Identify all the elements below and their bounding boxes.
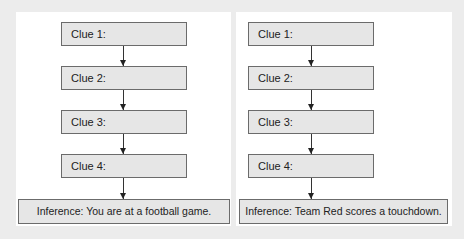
clue-label: Clue 2: [71,73,106,84]
arrow-down-icon [311,90,312,110]
arrow-down-icon [123,178,124,199]
clue-label: Clue 1: [258,29,293,40]
left-inference-box: Inference: You are at a football game. [18,199,230,224]
clue-label: Clue 3: [258,117,293,128]
right-inference-box: Inference: Team Red scores a touchdown. [239,199,448,224]
inference-text: Inference: Team Red scores a touchdown. [245,206,442,217]
clue-label: Clue 2: [258,73,293,84]
left-inference-panel: Clue 1: Clue 2: Clue 3: Clue 4: Inferenc… [16,12,231,226]
inference-text: Inference: You are at a football game. [37,206,212,217]
clue-label: Clue 4: [71,161,106,172]
left-clue-2-box: Clue 2: [61,66,187,90]
left-clue-3-box: Clue 3: [61,110,187,134]
arrow-down-icon [311,134,312,154]
clue-label: Clue 3: [71,117,106,128]
right-clue-3-box: Clue 3: [248,110,374,134]
arrow-down-icon [311,178,312,199]
left-clue-4-box: Clue 4: [61,154,187,178]
right-clue-1-box: Clue 1: [248,22,374,46]
right-clue-2-box: Clue 2: [248,66,374,90]
right-clue-4-box: Clue 4: [248,154,374,178]
arrow-down-icon [123,134,124,154]
left-clue-1-box: Clue 1: [61,22,187,46]
clue-label: Clue 1: [71,29,106,40]
right-inference-panel: Clue 1: Clue 2: Clue 3: Clue 4: Inferenc… [236,12,452,226]
arrow-down-icon [123,46,124,66]
arrow-down-icon [311,46,312,66]
arrow-down-icon [123,90,124,110]
clue-label: Clue 4: [258,161,293,172]
